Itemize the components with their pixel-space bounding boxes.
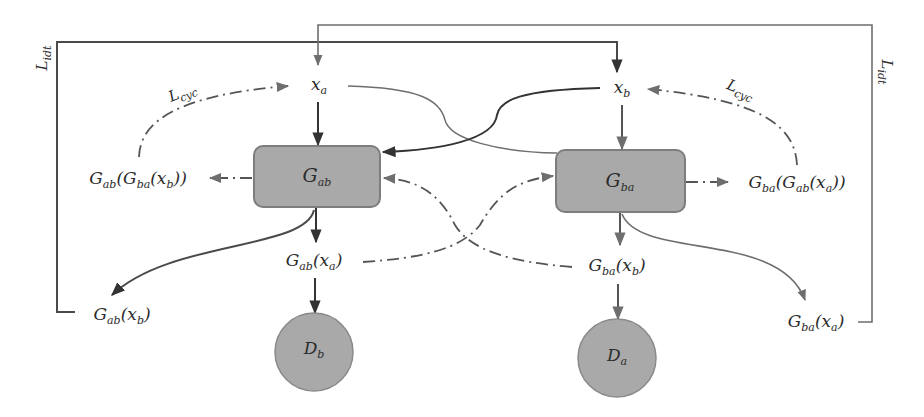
input-xa-label: xa	[311, 76, 327, 96]
gbaxb-to-gab-dashdot	[384, 178, 572, 267]
xb-to-gab-curve	[383, 88, 600, 152]
input-xb-label: xb	[614, 79, 631, 99]
output-gba-xa-label: Gba(xa)	[788, 313, 845, 333]
discriminator-b-label: Db	[304, 340, 325, 360]
cyclegan-diagram	[0, 0, 924, 417]
identity-loss-right-label: Lidt	[876, 60, 894, 85]
gba-to-gbaxa-curve	[622, 214, 805, 300]
generator-ba-label: Gba	[606, 171, 635, 193]
reconstruction-b-label: Gab(Gba(xb))	[89, 170, 187, 190]
generator-ab-label: Gab	[303, 166, 332, 188]
gab-to-gabxb-curve	[112, 210, 314, 295]
output-gab-xa-label: Gab(xa)	[286, 252, 343, 272]
reconstruction-a-label: Gba(Gab(xa))	[748, 174, 845, 194]
discriminator-a-label: Da	[607, 347, 627, 367]
output-gba-xb-label: Gba(xb)	[588, 257, 645, 277]
output-gab-xb-label: Gab(xb)	[93, 306, 150, 326]
identity-loss-left-label: Lidt	[35, 46, 53, 71]
gabxa-to-gba-dashdot	[363, 176, 553, 262]
